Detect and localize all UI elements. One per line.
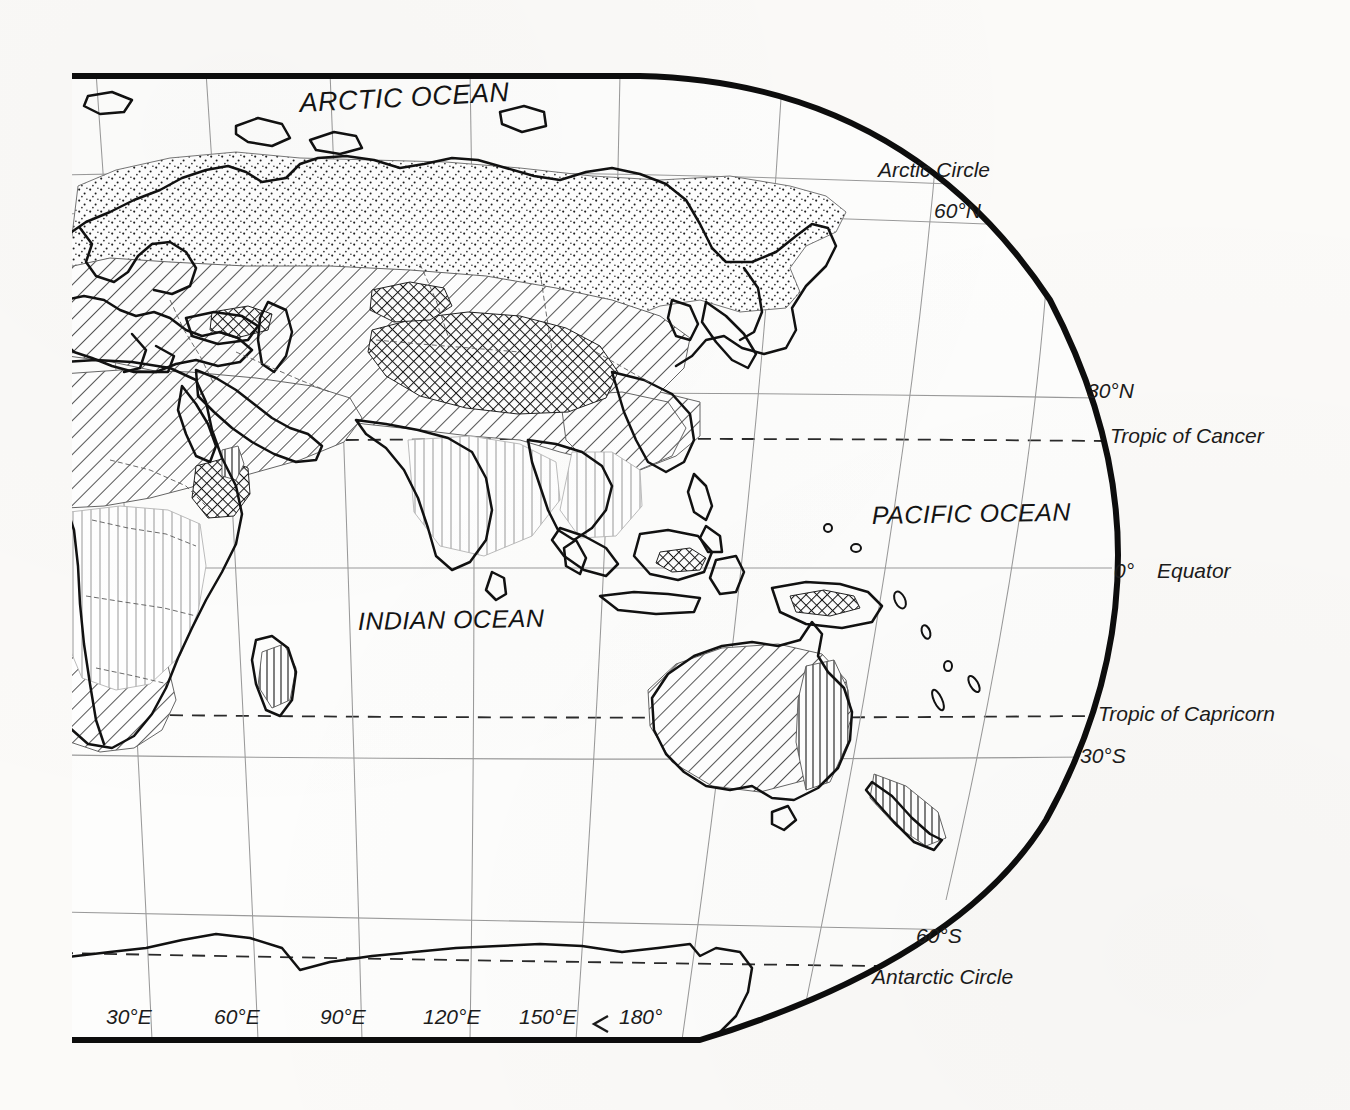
label-lon-180: 180°: [619, 1005, 662, 1028]
label-lat-60s: 60°S: [916, 924, 962, 947]
map-figure: ARCTIC OCEAN PACIFIC OCEAN INDIAN OCEAN …: [0, 0, 1350, 1110]
label-lon-150e: 150°E: [519, 1005, 577, 1028]
label-antarctic-circle: Antarctic Circle: [870, 965, 1013, 988]
label-arctic-circle: Arctic Circle: [876, 158, 990, 181]
ocean-label-indian-ocean: INDIAN OCEAN: [358, 604, 545, 635]
world-map-svg: ARCTIC OCEAN PACIFIC OCEAN INDIAN OCEAN …: [0, 0, 1350, 1110]
label-lon-30e: 30°E: [106, 1005, 153, 1028]
ocean-label-pacific-ocean: PACIFIC OCEAN: [872, 498, 1072, 529]
label-lat-60n: 60°N: [934, 199, 982, 222]
label-lon-60e: 60°E: [214, 1005, 261, 1028]
label-equator: Equator: [1157, 559, 1232, 582]
label-tropic-of-capricorn: Tropic of Capricorn: [1098, 702, 1275, 725]
label-tropic-of-cancer: Tropic of Cancer: [1110, 424, 1265, 447]
label-equator-degree: 0°: [1114, 559, 1134, 582]
label-lat-30n: 30°N: [1087, 379, 1135, 402]
label-lat-30s: 30°S: [1080, 744, 1126, 767]
label-lon-120e: 120°E: [423, 1005, 481, 1028]
map-body: [0, 0, 1350, 1110]
label-lon-90e: 90°E: [320, 1005, 367, 1028]
